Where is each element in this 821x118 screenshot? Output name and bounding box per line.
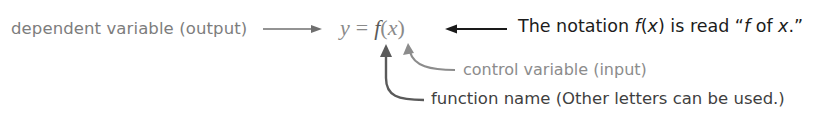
left-arrow-icon: [445, 25, 507, 34]
right-arrow-icon: [263, 25, 322, 33]
curved-arrow-input-icon: [403, 43, 455, 70]
arrows-layer: [0, 0, 821, 118]
curved-arrow-function-icon: [380, 44, 424, 100]
